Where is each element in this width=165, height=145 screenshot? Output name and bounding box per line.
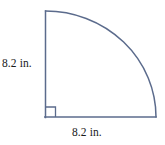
quarter-circle-figure [0, 0, 165, 145]
quarter-circle-arc [46, 11, 157, 117]
horizontal-side-dimension-label: 8.2 in. [72, 126, 102, 139]
vertical-side-dimension-label: 8.2 in. [2, 57, 32, 70]
right-angle-marker-icon [46, 107, 56, 117]
figure-canvas: 8.2 in. 8.2 in. [0, 0, 165, 145]
